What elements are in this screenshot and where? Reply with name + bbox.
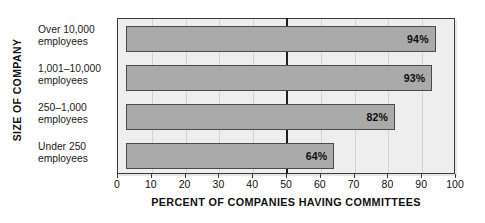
- category-label: Over 10,000employees: [38, 24, 114, 48]
- category-label: 1,001–10,000employees: [38, 63, 114, 87]
- bar-value-label: 94%: [407, 33, 435, 45]
- category-label-line: employees: [38, 114, 114, 126]
- bar[interactable]: 64%: [126, 143, 334, 169]
- bar-row: 93%: [118, 65, 456, 91]
- x-tick-label: 70: [348, 178, 360, 190]
- x-tick-label: 60: [314, 178, 326, 190]
- bar[interactable]: 82%: [126, 104, 395, 130]
- category-label-line: Over 10,000: [38, 24, 114, 36]
- x-tick-label: 0: [114, 178, 120, 190]
- category-label: 250–1,000employees: [38, 102, 114, 126]
- bar-value-label: 93%: [404, 72, 432, 84]
- x-tick-label: 90: [415, 178, 427, 190]
- category-label-line: 250–1,000: [38, 102, 114, 114]
- x-tick-label: 10: [145, 178, 157, 190]
- x-tick-label: 20: [179, 178, 191, 190]
- x-tick-label: 80: [382, 178, 394, 190]
- category-label-line: Under 250: [38, 141, 114, 153]
- category-label-line: employees: [38, 75, 114, 87]
- x-axis-ticks: 0102030405060708090100: [117, 174, 455, 194]
- x-tick-label: 30: [213, 178, 225, 190]
- bar-value-label: 82%: [367, 111, 395, 123]
- bar-row: 82%: [118, 104, 456, 130]
- x-axis-title: PERCENT OF COMPANIES HAVING COMMITTEES: [117, 196, 455, 208]
- bar[interactable]: 94%: [126, 26, 435, 52]
- y-axis-title-text: SIZE OF COMPANY: [11, 39, 23, 142]
- bar[interactable]: 93%: [126, 65, 432, 91]
- x-tick-label: 40: [246, 178, 258, 190]
- category-label-line: employees: [38, 36, 114, 48]
- bar-row: 94%: [118, 26, 456, 52]
- bar-value-label: 64%: [306, 150, 334, 162]
- x-tick-label: 100: [446, 178, 464, 190]
- category-label-line: employees: [38, 153, 114, 165]
- x-tick-label: 50: [280, 178, 292, 190]
- y-axis-title: SIZE OF COMPANY: [0, 0, 34, 180]
- plot-area: 94%93%82%64%: [117, 18, 455, 174]
- bar-row: 64%: [118, 143, 456, 169]
- chart-figure: SIZE OF COMPANY Over 10,000employees1,00…: [0, 0, 485, 223]
- category-label: Under 250employees: [38, 141, 114, 165]
- category-label-group: Over 10,000employees1,001–10,000employee…: [38, 18, 114, 174]
- category-label-line: 1,001–10,000: [38, 63, 114, 75]
